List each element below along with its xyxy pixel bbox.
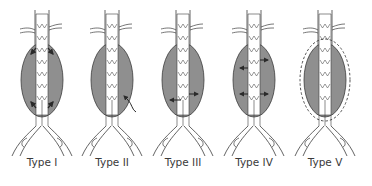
label-type-1: Type I [7,156,77,168]
label-type-3: Type III [148,156,218,168]
label-type-5: Type V [290,156,360,168]
panel-type-3 [153,10,213,156]
panel-type-5 [295,10,355,156]
label-type-2: Type II [77,156,147,168]
label-type-4: Type IV [219,156,289,168]
panel-type-4 [224,10,284,156]
panel-type-2 [82,10,142,156]
panel-type-1 [12,10,72,156]
